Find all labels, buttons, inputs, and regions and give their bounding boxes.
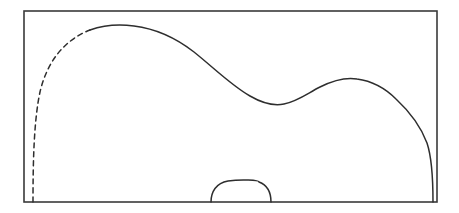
figure-container (0, 0, 459, 213)
diagram-canvas (0, 0, 459, 213)
